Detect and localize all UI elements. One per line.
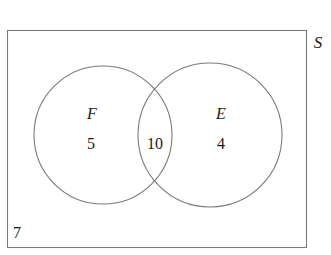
set-count-f: 5 [87,136,95,152]
universe-label: S [314,34,323,51]
venn-diagram-canvas [0,0,331,255]
venn-diagram: S F 5 10 E 4 7 [0,0,331,255]
set-label-e: E [216,106,226,122]
outside-count: 7 [13,225,21,241]
set-count-e: 4 [217,136,225,152]
intersection-count: 10 [147,136,163,152]
set-label-f: F [87,106,97,122]
